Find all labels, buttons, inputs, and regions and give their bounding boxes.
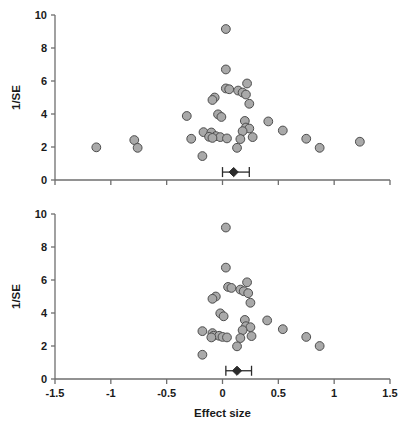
y-tick-label: 10 bbox=[35, 9, 47, 21]
data-point bbox=[315, 143, 324, 152]
x-tick-label: 0.5 bbox=[271, 387, 286, 399]
x-tick-label: -1 bbox=[106, 387, 116, 399]
data-point bbox=[221, 65, 230, 74]
data-point bbox=[247, 332, 256, 341]
data-point bbox=[208, 96, 217, 105]
data-point bbox=[227, 284, 236, 293]
data-point bbox=[221, 223, 230, 232]
summary-estimate-top bbox=[223, 167, 250, 177]
data-point bbox=[238, 127, 247, 136]
data-point bbox=[355, 137, 364, 146]
data-point bbox=[242, 90, 251, 99]
x-axis-bottom: -1.5-1-0.500.511.5Effect size bbox=[46, 379, 398, 419]
y-tick-label: 6 bbox=[41, 274, 47, 286]
y-axis-bottom: 02468101/SE bbox=[10, 208, 55, 385]
y-tick-label: 4 bbox=[41, 108, 48, 120]
x-tick-label: -0.5 bbox=[157, 387, 176, 399]
data-points-top bbox=[92, 25, 364, 161]
data-point bbox=[198, 152, 207, 161]
x-tick-label: 1 bbox=[331, 387, 337, 399]
data-point bbox=[219, 312, 228, 321]
summary-estimate-bottom bbox=[226, 366, 252, 376]
data-point bbox=[208, 294, 217, 303]
funnel-plot-panel-bottom: 02468101/SE-1.5-1-0.500.511.5Effect size bbox=[0, 200, 418, 428]
data-point bbox=[243, 79, 252, 88]
data-point bbox=[278, 325, 287, 334]
data-point bbox=[187, 134, 196, 143]
y-tick-label: 0 bbox=[41, 373, 47, 385]
funnel-plot-svg-bottom: 02468101/SE-1.5-1-0.500.511.5Effect size bbox=[0, 200, 418, 428]
y-tick-label: 4 bbox=[41, 307, 48, 319]
data-point bbox=[243, 278, 252, 287]
data-point bbox=[315, 342, 324, 351]
data-point bbox=[221, 263, 230, 272]
data-point bbox=[236, 135, 245, 144]
data-point bbox=[236, 334, 245, 343]
data-point bbox=[198, 327, 207, 336]
y-tick-label: 8 bbox=[41, 241, 47, 253]
y-axis-title: 1/SE bbox=[10, 284, 22, 309]
data-point bbox=[278, 126, 287, 135]
data-point bbox=[182, 112, 191, 121]
data-point bbox=[233, 143, 242, 152]
data-point bbox=[248, 133, 257, 142]
data-points-bottom bbox=[198, 223, 324, 359]
data-point bbox=[245, 99, 254, 108]
data-point bbox=[244, 289, 253, 298]
y-tick-label: 2 bbox=[41, 141, 47, 153]
funnel-plot-panel-top: 02468101/SE bbox=[0, 0, 418, 200]
data-point bbox=[302, 134, 311, 143]
data-point bbox=[263, 316, 272, 325]
x-tick-label: 0 bbox=[219, 387, 225, 399]
summary-diamond bbox=[232, 366, 241, 375]
y-tick-label: 2 bbox=[41, 340, 47, 352]
data-point bbox=[208, 134, 217, 143]
x-axis-top bbox=[55, 180, 390, 185]
x-axis-title: Effect size bbox=[194, 407, 251, 419]
data-point bbox=[302, 333, 311, 342]
y-tick-label: 6 bbox=[41, 75, 47, 87]
funnel-plot-figure: 02468101/SE 02468101/SE-1.5-1-0.500.511.… bbox=[0, 0, 418, 428]
y-axis-title: 1/SE bbox=[10, 85, 22, 110]
data-point bbox=[221, 25, 230, 34]
y-tick-label: 0 bbox=[41, 174, 47, 186]
data-point bbox=[264, 117, 273, 126]
data-point bbox=[133, 143, 142, 152]
data-point bbox=[238, 326, 247, 335]
data-point bbox=[198, 350, 207, 359]
summary-diamond bbox=[229, 167, 238, 176]
y-tick-label: 10 bbox=[35, 208, 47, 220]
data-point bbox=[233, 342, 242, 351]
data-point bbox=[207, 333, 216, 342]
y-tick-label: 8 bbox=[41, 42, 47, 54]
y-axis-top: 02468101/SE bbox=[10, 9, 55, 186]
x-tick-label: 1.5 bbox=[382, 387, 397, 399]
x-tick-label: -1.5 bbox=[46, 387, 65, 399]
data-point bbox=[217, 113, 226, 122]
data-point bbox=[225, 85, 234, 94]
data-point bbox=[223, 134, 232, 143]
data-point bbox=[92, 143, 101, 152]
data-point bbox=[223, 333, 232, 342]
funnel-plot-svg-top: 02468101/SE bbox=[0, 0, 418, 200]
data-point bbox=[246, 298, 255, 307]
